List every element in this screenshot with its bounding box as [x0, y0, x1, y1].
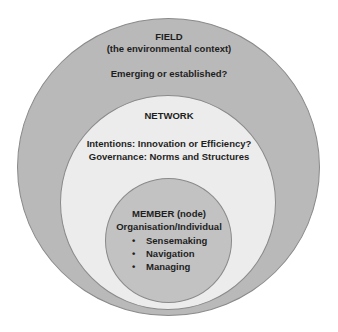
member-bullet-list: •Sensemaking •Navigation •Managing: [132, 234, 207, 273]
list-item: •Managing: [132, 260, 207, 273]
member-subtitle: Organisation/Individual: [0, 221, 338, 233]
network-intentions: Intentions: Innovation or Efficiency?: [0, 138, 338, 150]
member-title: MEMBER (node): [0, 208, 338, 220]
list-item: •Sensemaking: [132, 234, 207, 247]
list-item: •Navigation: [132, 247, 207, 260]
network-title: NETWORK: [0, 110, 338, 122]
field-title: FIELD: [0, 31, 338, 43]
bullet-icon: •: [132, 260, 146, 273]
bullet-icon: •: [132, 247, 146, 260]
bullet-icon: •: [132, 234, 146, 247]
field-question: Emerging or established?: [0, 68, 338, 80]
network-governance: Governance: Norms and Structures: [0, 151, 338, 163]
field-subtitle: (the environmental context): [0, 43, 338, 55]
